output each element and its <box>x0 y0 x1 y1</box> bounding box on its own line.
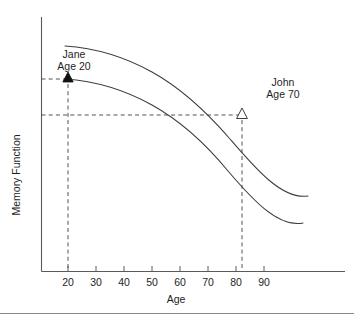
john-guide-lines <box>42 115 243 271</box>
x-tick-label-70: 70 <box>202 276 214 288</box>
x-tick-label-60: 60 <box>174 276 186 288</box>
jane-annotation-label: Jane Age 20 <box>57 48 90 72</box>
x-tick-label-40: 40 <box>118 276 130 288</box>
memory-function-chart: Jane Age 20 John Age 70 20 30 40 50 60 7… <box>0 0 354 323</box>
filled-triangle-marker[interactable] <box>63 72 73 82</box>
x-tick-label-50: 50 <box>146 276 158 288</box>
jane-marker[interactable] <box>63 72 73 82</box>
upper-curve-line <box>65 46 308 196</box>
jane-name-text: Jane <box>63 48 86 60</box>
x-tick-label-90: 90 <box>258 276 270 288</box>
john-annotation-label: John Age 70 <box>266 76 299 100</box>
curve-group <box>65 46 308 224</box>
x-axis-title: Age <box>167 293 186 305</box>
chart-page: Jane Age 20 John Age 70 20 30 40 50 60 7… <box>0 0 354 323</box>
x-tick-labels: 20 30 40 50 60 70 80 90 <box>62 276 270 288</box>
john-marker[interactable] <box>237 108 248 119</box>
open-triangle-marker[interactable] <box>237 108 248 119</box>
x-tick-label-80: 80 <box>230 276 242 288</box>
lower-curve-line <box>65 79 303 224</box>
jane-age-text: Age 20 <box>57 60 90 72</box>
axis-group <box>42 17 346 272</box>
x-tick-marks <box>68 266 264 272</box>
x-tick-label-30: 30 <box>90 276 102 288</box>
john-name-text: John <box>272 76 295 88</box>
x-tick-label-20: 20 <box>62 276 74 288</box>
john-age-text: Age 70 <box>266 88 299 100</box>
y-axis-title: Memory Function <box>10 134 22 215</box>
jane-guide-lines <box>42 79 69 271</box>
